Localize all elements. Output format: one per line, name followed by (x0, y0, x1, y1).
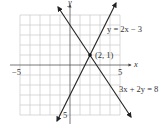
intersection-label: (2, 1) (95, 50, 114, 60)
line1-label: y = 2x − 3 (107, 24, 142, 34)
line2-label: 3x + 2y = 8 (119, 84, 158, 94)
x-axis-label: x (133, 59, 138, 69)
y-tick-neg5: 5 (63, 110, 67, 120)
graph: x y −5 5 5 (2, 1) y = 2x − 3 3x + 2y = 8 (0, 0, 167, 127)
x-tick-5: 5 (118, 67, 122, 77)
intersection-point (88, 53, 92, 57)
y-axis-label: y (67, 0, 72, 7)
line-y-2x-minus-3 (57, 3, 116, 121)
x-tick-neg5: −5 (12, 67, 21, 77)
